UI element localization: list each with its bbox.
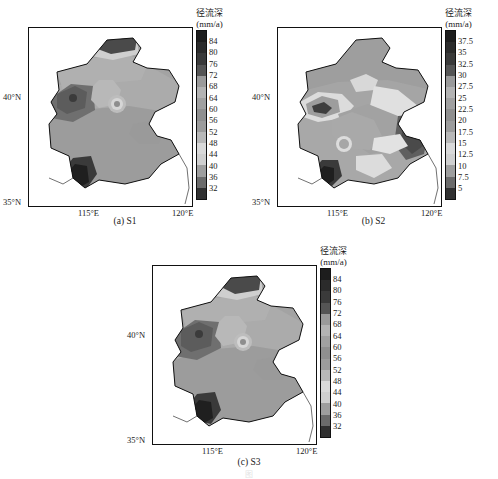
river-line-s1	[49, 178, 73, 184]
colorbar-title-s2: 径流深 (mm/a)	[445, 8, 472, 29]
colorbar-cell	[446, 132, 455, 143]
colorbar-cell	[321, 370, 330, 381]
coastline-s1	[179, 154, 189, 204]
colorbar-tick-label: 52	[209, 128, 218, 137]
colorbar-cell	[197, 121, 206, 132]
colorbar-tick-label: 44	[209, 150, 218, 159]
colorbar-tick-label: 56	[209, 116, 218, 125]
colorbar-tick-label: 5	[458, 184, 462, 193]
colorbar-title-text-s2: 径流深	[445, 8, 472, 19]
colorbar-cell	[321, 415, 330, 426]
colorbar-title-s1: 径流深 (mm/a)	[196, 8, 223, 29]
contour-fills-s2	[278, 28, 441, 206]
map-contours-s3	[153, 266, 316, 444]
map-plot-s2	[277, 27, 442, 207]
contour-fills-s3	[153, 266, 316, 444]
colorbar-tick-label: 80	[209, 48, 218, 57]
colorbar-tick-label: 64	[333, 332, 342, 341]
colorbar-tick-label: 72	[209, 71, 218, 80]
ytick-40n-s2: 40°N	[252, 93, 270, 102]
colorbar-cell	[446, 76, 455, 87]
colorbar-tick-label: 68	[333, 320, 342, 329]
colorbar-s1: 径流深 (mm/a) 8480767268646056524844403632	[196, 8, 223, 208]
colorbar-units-s3: (mm/a)	[320, 257, 347, 268]
colorbar-cell	[321, 336, 330, 347]
panel-s2: 40°N 35°N 115°E 120°E 径流深 (mm/a) 37.5353…	[249, 0, 498, 238]
coastline-s2	[428, 154, 438, 204]
colorbar-cell	[321, 269, 330, 280]
panel-caption-s3: (c) S3	[124, 457, 374, 467]
colorbar-tick-label: 7.5	[458, 173, 469, 182]
map-contours-s1	[29, 28, 192, 206]
colorbar-cell	[321, 392, 330, 403]
colorbar-tick-label: 68	[209, 82, 218, 91]
colorbar-cell	[321, 291, 330, 302]
ytick-40n-s1: 40°N	[3, 93, 21, 102]
colorbar-tick-label: 84	[333, 275, 342, 284]
colorbar-s2: 径流深 (mm/a) 37.53532.53027.52522.52017.51…	[445, 8, 472, 208]
colorbar-cell	[321, 303, 330, 314]
colorbar-tick-label: 15	[458, 139, 467, 148]
colorbar-cell	[446, 109, 455, 120]
colorbar-cell	[446, 53, 455, 64]
colorbar-tick-label: 37.5	[458, 37, 473, 46]
colorbar-cell	[446, 188, 455, 199]
colorbar-tick-label: 64	[209, 94, 218, 103]
colorbar-units-s2: (mm/a)	[445, 19, 472, 30]
ytick-40n-s3: 40°N	[127, 331, 145, 340]
colorbar-tick-label: 36	[209, 173, 218, 182]
figure-caption: 图	[0, 468, 498, 479]
colorbar-cell	[197, 165, 206, 176]
colorbar-cell	[321, 314, 330, 325]
river-line-s2	[298, 178, 322, 184]
colorbar-tick-label: 17.5	[458, 128, 473, 137]
map-contours-s2	[278, 28, 441, 206]
colorbar-cell	[321, 403, 330, 414]
ytick-35n-s3: 35°N	[127, 436, 145, 445]
colorbar-cell	[446, 165, 455, 176]
colorbar-tick-label: 35	[458, 48, 467, 57]
colorbar-tick-label: 36	[333, 411, 342, 420]
colorbar-cell	[197, 53, 206, 64]
colorbar-units-s1: (mm/a)	[196, 19, 223, 30]
colorbar-cell	[197, 87, 206, 98]
colorbar-cell	[446, 42, 455, 53]
colorbar-tick-label: 52	[333, 366, 342, 375]
colorbar-tick-label: 10	[458, 162, 467, 171]
colorbar-tick-label: 80	[333, 286, 342, 295]
colorbar-tick-label: 60	[209, 105, 218, 114]
colorbar-tick-label: 48	[333, 377, 342, 386]
colorbar-tick-label: 72	[333, 309, 342, 318]
panel-caption-s1: (a) S1	[0, 216, 250, 226]
colorbar-cell	[446, 31, 455, 42]
map-plot-s1	[28, 27, 193, 207]
colorbar-tick-label: 76	[209, 60, 218, 69]
colorbar-cell	[197, 132, 206, 143]
colorbar-tick-label: 12.5	[458, 150, 473, 159]
colorbar-cell	[321, 359, 330, 370]
colorbar-s3: 径流深 (mm/a) 8480767268646056524844403632	[320, 246, 347, 446]
colorbar-cell	[197, 109, 206, 120]
colorbar-tick-label: 48	[209, 139, 218, 148]
colorbar-gradient-s3	[320, 268, 331, 438]
colorbar-title-s3: 径流深 (mm/a)	[320, 246, 347, 267]
colorbar-cell	[197, 42, 206, 53]
colorbar-cell	[197, 31, 206, 42]
colorbar-cell	[197, 188, 206, 199]
ytick-35n-s1: 35°N	[3, 198, 21, 207]
ytick-35n-s2: 35°N	[252, 198, 270, 207]
colorbar-cell	[197, 76, 206, 87]
colorbar-tick-label: 56	[333, 354, 342, 363]
colorbar-tick-label: 40	[209, 162, 218, 171]
colorbar-cell	[446, 87, 455, 98]
colorbar-cell	[321, 426, 330, 437]
colorbar-cell	[197, 143, 206, 154]
colorbar-cell	[321, 280, 330, 291]
colorbar-cell	[197, 154, 206, 165]
colorbar-tick-label: 44	[333, 388, 342, 397]
river-line-s3	[173, 416, 197, 422]
colorbar-cell	[197, 177, 206, 188]
colorbar-tick-label: 76	[333, 298, 342, 307]
colorbar-tick-label: 32.5	[458, 60, 473, 69]
panel-s3: 40°N 35°N 115°E 120°E 径流深 (mm/a) 8480767…	[124, 238, 374, 479]
